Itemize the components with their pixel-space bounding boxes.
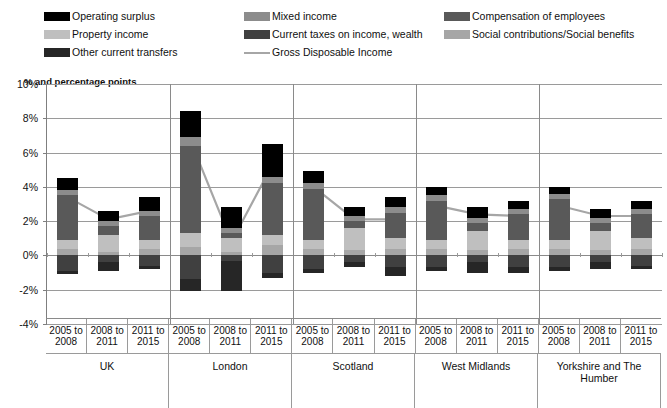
bar-segment — [98, 255, 119, 262]
category-label: 2005 to 2008 — [46, 319, 87, 353]
bar-segment — [57, 271, 78, 274]
bar-segment — [508, 267, 529, 272]
bar-stack — [590, 84, 611, 324]
plot-area — [46, 84, 662, 324]
legend-item-mixed-income: Mixed income — [244, 8, 423, 24]
bar-stack — [467, 84, 488, 324]
y-axis-tick-labels: -4%-2%0%2%4%6%8%10% — [0, 84, 44, 334]
bar-segment — [549, 187, 570, 194]
category-label: 2008 to 2011 — [457, 319, 498, 353]
plot-wrapper: -4%-2%0%2%4%6%8%10% — [0, 84, 667, 334]
bar-segment — [57, 240, 78, 249]
bar-segment — [631, 214, 652, 238]
bar-segment — [426, 267, 447, 270]
category-label: 2005 to 2008 — [416, 319, 457, 353]
bar-segment — [57, 178, 78, 190]
legend-column-2: Mixed income Current taxes on income, we… — [244, 8, 423, 62]
group-separator — [539, 84, 540, 324]
y-axis-tick-label: 8% — [23, 112, 38, 124]
category-label: 2011 to 2015 — [128, 319, 169, 353]
category-label: 2011 to 2015 — [375, 319, 416, 353]
legend-swatch-icon — [244, 30, 270, 39]
group-label: London — [169, 354, 292, 408]
group-label: Yorkshire and The Humber — [538, 354, 661, 408]
bar-segment — [98, 235, 119, 252]
bar-segment — [426, 240, 447, 249]
bar-stack — [549, 84, 570, 324]
legend-item-property-income: Property income — [44, 26, 178, 42]
category-label: 2005 to 2008 — [539, 319, 580, 353]
bar-segment — [98, 211, 119, 221]
bar-segment — [385, 267, 406, 276]
y-axis-tick-label: -2% — [19, 284, 38, 296]
bar-segment — [180, 111, 201, 137]
x-axis-minor-tick — [334, 253, 335, 257]
bar-segment — [180, 233, 201, 247]
bar-segment — [467, 255, 488, 262]
bar-segment — [426, 255, 447, 267]
bar-segment — [98, 226, 119, 235]
bar-segment — [180, 146, 201, 233]
legend-swatch-icon — [44, 12, 70, 21]
chart-legend: Operating surplus Property income Other … — [0, 0, 667, 74]
bar-stack — [139, 84, 160, 324]
category-label: 2011 to 2015 — [498, 319, 539, 353]
bar-segment — [139, 240, 160, 249]
bar-stack — [221, 84, 242, 324]
bar-segment — [385, 213, 406, 239]
x-axis-minor-tick — [47, 253, 48, 257]
legend-item-social-contributions: Social contributions/Social benefits — [444, 26, 634, 42]
category-label: 2005 to 2008 — [169, 319, 210, 353]
category-label: 2011 to 2015 — [251, 319, 292, 353]
bar-segment — [57, 255, 78, 270]
bar-stack — [98, 84, 119, 324]
category-label: 2008 to 2011 — [87, 319, 128, 353]
bar-segment — [385, 197, 406, 207]
legend-label: Current taxes on income, wealth — [272, 29, 423, 40]
bar-segment — [508, 214, 529, 240]
y-axis-tick-label: 10% — [17, 78, 38, 90]
legend-swatch-icon — [244, 12, 270, 21]
bar-segment — [385, 249, 406, 256]
legend-column-1: Operating surplus Property income Other … — [44, 8, 178, 62]
legend-label: Other current transfers — [72, 47, 178, 58]
category-label: 2008 to 2011 — [580, 319, 621, 353]
legend-label: Social contributions/Social benefits — [472, 29, 634, 40]
bar-segment — [467, 223, 488, 232]
bar-segment — [262, 144, 283, 177]
bar-segment — [590, 223, 611, 232]
bar-segment — [631, 266, 652, 269]
group-label: Scotland — [292, 354, 415, 408]
y-axis-tick — [43, 153, 47, 154]
bar-segment — [549, 199, 570, 240]
bar-segment — [590, 209, 611, 218]
bar-segment — [426, 201, 447, 240]
bar-segment — [303, 269, 324, 272]
bar-segment — [262, 235, 283, 245]
legend-item-gross-disposable-income: Gross Disposable Income — [244, 44, 423, 60]
bar-segment — [139, 216, 160, 240]
category-label-row: 2005 to 20082008 to 20112011 to 20152005… — [46, 319, 661, 353]
bar-segment — [139, 249, 160, 256]
bar-segment — [549, 267, 570, 270]
bar-segment — [590, 255, 611, 262]
x-axis-minor-tick — [88, 253, 89, 257]
bar-segment — [262, 255, 283, 272]
bar-segment — [221, 207, 242, 228]
bar-segment — [180, 255, 201, 279]
x-axis-minor-tick — [621, 253, 622, 257]
bar-segment — [426, 249, 447, 256]
bar-segment — [262, 273, 283, 278]
legend-swatch-icon — [44, 30, 70, 39]
bar-segment — [549, 240, 570, 249]
bar-segment — [303, 171, 324, 183]
x-axis-minor-tick — [211, 253, 212, 257]
bar-segment — [344, 228, 365, 250]
bar-stack — [180, 84, 201, 324]
legend-item-current-taxes: Current taxes on income, wealth — [244, 26, 423, 42]
legend-label: Mixed income — [272, 11, 337, 22]
bar-segment — [221, 261, 242, 292]
x-axis-minor-tick — [580, 253, 581, 257]
bar-stack — [57, 84, 78, 324]
bar-segment — [467, 207, 488, 217]
